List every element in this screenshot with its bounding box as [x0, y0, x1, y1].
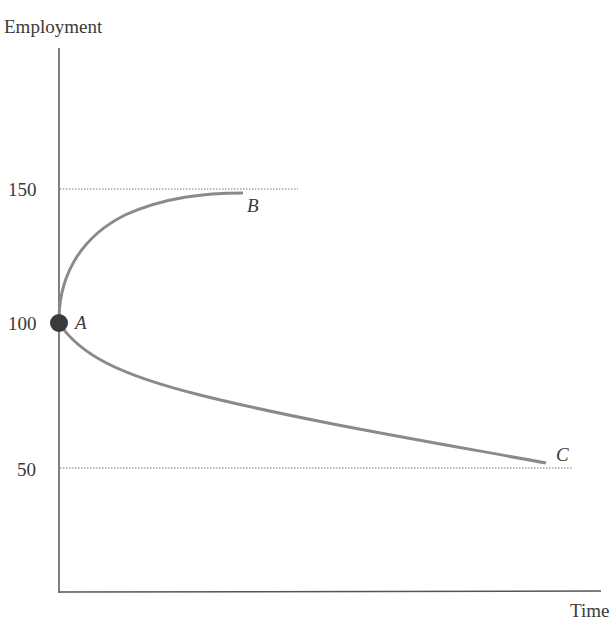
x-axis [59, 591, 601, 592]
x-axis-label: Time [570, 601, 609, 620]
point-b-label: B [247, 196, 259, 215]
tick-50: 50 [17, 460, 36, 479]
point-a-label: A [75, 313, 87, 332]
tick-100: 100 [8, 314, 37, 333]
point-a-marker [50, 314, 68, 332]
curve-a-to-b [59, 193, 243, 318]
curve-a-to-c [59, 323, 546, 463]
y-axis-label: Employment [4, 17, 102, 36]
tick-150: 150 [8, 180, 37, 199]
point-c-label: C [556, 445, 569, 464]
chart-canvas [0, 0, 611, 620]
